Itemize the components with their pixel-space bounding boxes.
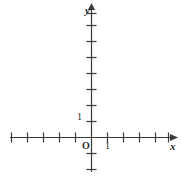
coordinate-axes-graphic xyxy=(0,0,182,178)
x-axis-tick-label-one: 1 xyxy=(105,141,110,151)
coordinate-plane-figure: y x O 1 1 xyxy=(0,0,182,178)
y-axis-label: y xyxy=(85,5,90,16)
x-axis-label: x xyxy=(170,141,176,152)
y-axis-tick-label-one: 1 xyxy=(77,112,82,122)
origin-label: O xyxy=(82,141,90,151)
